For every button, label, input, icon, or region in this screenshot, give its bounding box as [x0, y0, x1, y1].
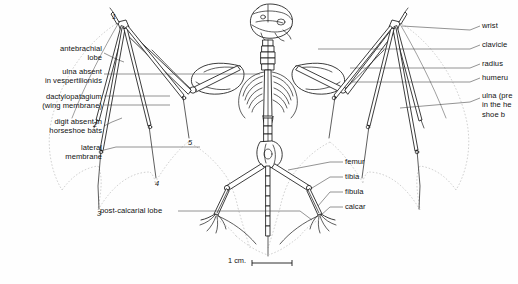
label-femur: femur [345, 157, 365, 166]
scale-bar [252, 260, 292, 266]
label-fibula: fibula [345, 187, 363, 196]
label-dactylopatagium: dactylopatagium (wing membrane) [6, 92, 102, 111]
lumbar-spine-and-pelvis [257, 118, 282, 168]
label-ulna-present-horseshoe-bats: ulna (pre in the he shoe b [482, 91, 512, 119]
digit-number-4: 4 [155, 179, 159, 188]
digit-number-3: 3 [97, 209, 101, 218]
skull [250, 4, 292, 42]
label-radius: radius [482, 59, 503, 68]
hind-limb-left [200, 164, 264, 236]
right-wing-skeleton [296, 8, 446, 209]
label-humerus: humeru [482, 73, 508, 82]
label-post-calcarial-lobe: post-calcarial lobe [100, 206, 162, 215]
label-tibia: tibia [345, 172, 359, 181]
vertebral-column [261, 40, 275, 70]
hind-limb-right [272, 164, 336, 236]
scale-bar-label: 1 cm. [228, 256, 246, 265]
label-ulna-absent-vespertilionids: ulna absent in vespertilionids [6, 67, 102, 86]
label-antebrachial-lobe: antebrachial lobe [14, 44, 102, 63]
bat-skeleton-illustration: .bone{fill:#ffffff;stroke:#1a1a1a;stroke… [0, 0, 518, 284]
digit-number-2: 2 [93, 120, 97, 129]
label-wrist: wrist [482, 21, 498, 30]
digit-number-5: 5 [188, 138, 192, 147]
bat-skeleton-figure: .bone{fill:#ffffff;stroke:#1a1a1a;stroke… [0, 0, 518, 284]
label-clavicle: clavicle [482, 40, 507, 49]
digit-number-1: 1 [112, 12, 116, 21]
label-lateral-membrane: lateral membrane [14, 143, 102, 162]
label-digit-absent-horseshoe-bats: digit absent in horseshoe bats [6, 117, 102, 136]
label-calcar: calcar [345, 202, 366, 211]
